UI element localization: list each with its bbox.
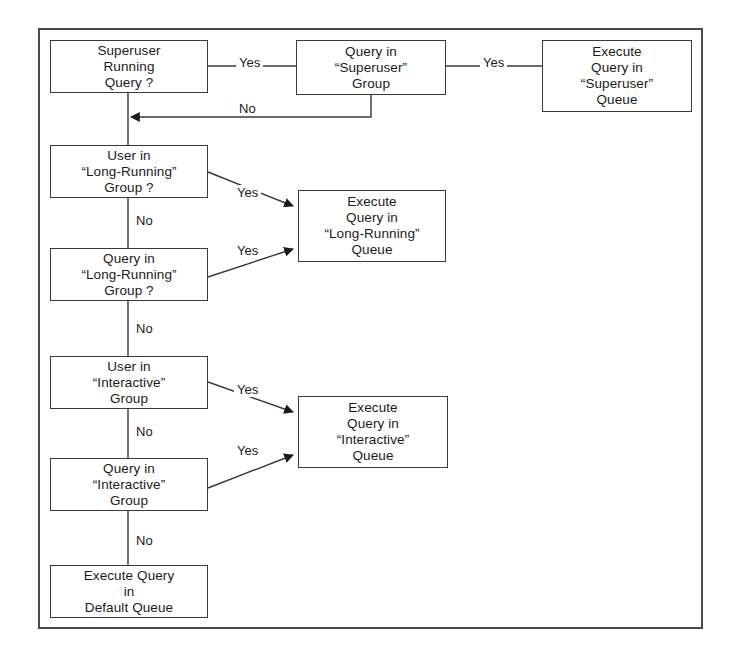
node-superuser-running-query[interactable]: Superuser Running Query ?: [50, 40, 208, 93]
edge-label-no-user-interactive: No: [133, 424, 156, 439]
node-line: Execute: [348, 400, 397, 416]
node-line: Query ?: [105, 75, 154, 91]
edge-label-no-user-long-running: No: [133, 213, 156, 228]
node-line: “Superuser”: [335, 60, 407, 76]
node-line: Execute: [592, 44, 641, 60]
node-line: “Long-Running”: [81, 164, 176, 180]
edge-label-no-query-long-running: No: [133, 321, 156, 336]
node-query-in-long-running-group[interactable]: Query in “Long-Running” Group ?: [50, 248, 208, 301]
edge-label-yes-superuser-group: Yes: [480, 55, 507, 70]
flowchart-page: Query in Superuser Group --> Execute Sup…: [0, 0, 737, 664]
node-line: Running: [104, 59, 155, 75]
node-line: Query in: [103, 251, 155, 267]
edge-label-yes-superuser-running: Yes: [236, 55, 263, 70]
node-execute-superuser-queue[interactable]: Execute Query in “Superuser” Queue: [542, 40, 692, 112]
edge-label-yes-user-interactive: Yes: [234, 382, 261, 397]
node-line: Group: [110, 391, 148, 407]
node-user-in-interactive-group[interactable]: User in “Interactive” Group: [50, 356, 208, 409]
node-line: Queue: [351, 242, 392, 258]
node-line: Query in: [103, 461, 155, 477]
node-line: Superuser: [97, 43, 160, 59]
node-user-in-long-running-group[interactable]: User in “Long-Running” Group ?: [50, 145, 208, 198]
node-line: “Superuser”: [581, 76, 653, 92]
node-line: Query in: [347, 416, 399, 432]
node-query-in-superuser-group[interactable]: Query in “Superuser” Group: [296, 40, 446, 95]
node-line: Group: [352, 76, 390, 92]
node-line: “Long-Running”: [81, 267, 176, 283]
node-execute-interactive-queue[interactable]: Execute Query in “Interactive” Queue: [298, 396, 448, 468]
edge-label-no-query-interactive: No: [133, 533, 156, 548]
node-line: “Interactive”: [93, 477, 166, 493]
node-line: User in: [107, 148, 150, 164]
node-line: in: [124, 584, 135, 600]
node-line: Execute Query: [84, 568, 175, 584]
node-line: Group ?: [104, 180, 153, 196]
node-line: Query in: [345, 44, 397, 60]
node-line: Default Queue: [85, 600, 173, 616]
node-line: Query in: [591, 60, 643, 76]
node-line: Execute: [347, 194, 396, 210]
node-execute-default-queue[interactable]: Execute Query in Default Queue: [50, 565, 208, 618]
node-query-in-interactive-group[interactable]: Query in “Interactive” Group: [50, 458, 208, 511]
node-execute-long-running-queue[interactable]: Execute Query in “Long-Running” Queue: [298, 190, 446, 262]
node-line: User in: [107, 359, 150, 375]
node-line: “Interactive”: [93, 375, 166, 391]
edge-label-yes-query-long-running: Yes: [234, 243, 261, 258]
node-line: Queue: [352, 448, 393, 464]
node-line: “Long-Running”: [324, 226, 419, 242]
node-line: Queue: [596, 92, 637, 108]
node-line: Group: [110, 493, 148, 509]
node-line: Group ?: [104, 283, 153, 299]
edge-label-yes-query-interactive: Yes: [234, 443, 261, 458]
edge-label-no-superuser-group: No: [236, 101, 259, 116]
node-line: Query in: [346, 210, 398, 226]
node-line: “Interactive”: [337, 432, 410, 448]
edge-label-yes-user-long-running: Yes: [234, 185, 261, 200]
